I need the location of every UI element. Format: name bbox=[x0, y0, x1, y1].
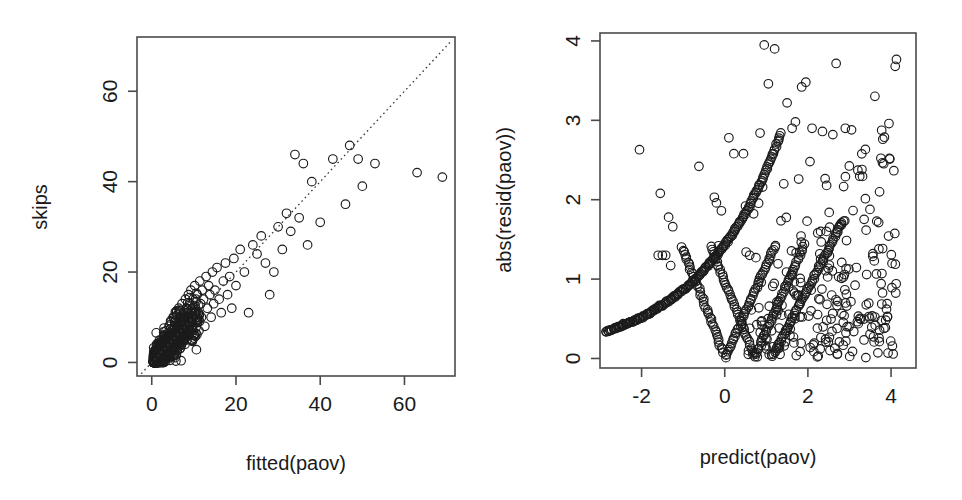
data-point bbox=[207, 313, 216, 322]
right-y-tick-label: 0 bbox=[561, 353, 584, 365]
data-point bbox=[354, 155, 363, 164]
data-point bbox=[211, 286, 220, 295]
data-point bbox=[828, 309, 837, 318]
data-point bbox=[866, 205, 875, 214]
data-point bbox=[329, 155, 338, 164]
data-point bbox=[851, 281, 860, 290]
data-point bbox=[878, 269, 887, 278]
data-point bbox=[818, 285, 827, 294]
data-point bbox=[878, 289, 887, 298]
data-point bbox=[192, 345, 201, 354]
data-point bbox=[270, 268, 279, 277]
data-point bbox=[656, 189, 665, 198]
data-point bbox=[890, 166, 899, 175]
data-point bbox=[885, 119, 894, 128]
data-point bbox=[841, 172, 850, 181]
data-point bbox=[847, 126, 856, 135]
data-point bbox=[841, 124, 850, 133]
data-point bbox=[209, 299, 218, 308]
left-y-tick-label: 20 bbox=[98, 260, 121, 283]
right-y-tick-label: 4 bbox=[561, 35, 584, 47]
right-data-points bbox=[602, 41, 901, 362]
data-point bbox=[760, 41, 769, 50]
data-point bbox=[829, 130, 838, 139]
left-x-tick-label: 60 bbox=[393, 392, 416, 415]
right-y-tick-label: 3 bbox=[561, 114, 584, 126]
data-point bbox=[845, 352, 854, 361]
data-point bbox=[215, 295, 224, 304]
data-point bbox=[253, 250, 262, 259]
data-point bbox=[225, 272, 234, 281]
data-point bbox=[217, 308, 226, 317]
data-point bbox=[839, 182, 848, 191]
left-plot-region bbox=[137, 37, 455, 376]
data-point bbox=[730, 149, 739, 158]
data-point bbox=[286, 227, 295, 236]
data-point bbox=[862, 301, 871, 310]
data-point bbox=[774, 260, 783, 269]
right-x-tick-label: 0 bbox=[719, 384, 731, 407]
left-x-axis-title: fitted(paov) bbox=[246, 452, 346, 474]
data-point bbox=[227, 304, 236, 313]
right-x-tick-label: 4 bbox=[885, 384, 897, 407]
right-x-tick-label: -2 bbox=[632, 384, 651, 407]
right-x-axis-title: predict(paov) bbox=[700, 446, 817, 468]
data-point bbox=[230, 254, 239, 263]
right-scatter-panel: -2024 01234 predict(paov) abs(resid(paov… bbox=[481, 0, 962, 500]
data-point bbox=[845, 162, 854, 171]
left-y-axis: 0204060 bbox=[98, 80, 137, 369]
data-point bbox=[888, 342, 897, 351]
data-point bbox=[739, 149, 748, 158]
left-y-tick-label: 40 bbox=[98, 170, 121, 193]
data-point bbox=[794, 175, 803, 184]
data-point bbox=[291, 150, 300, 159]
data-point bbox=[299, 159, 308, 168]
left-x-tick-label: 0 bbox=[146, 392, 158, 415]
data-point bbox=[818, 127, 827, 136]
data-point bbox=[712, 199, 721, 208]
data-point bbox=[816, 227, 825, 236]
left-scatter-panel: 0204060 0204060 fitted(paov) skips bbox=[0, 0, 481, 500]
left-y-tick-label: 0 bbox=[98, 357, 121, 369]
data-point bbox=[244, 308, 253, 317]
data-point bbox=[768, 282, 777, 291]
left-data-points bbox=[149, 141, 447, 367]
data-point bbox=[232, 281, 241, 290]
identity-reference-line bbox=[141, 42, 451, 374]
data-point bbox=[282, 209, 291, 218]
data-point bbox=[887, 250, 896, 259]
data-point bbox=[206, 290, 215, 299]
data-point bbox=[635, 145, 644, 154]
right-y-axis: 01234 bbox=[561, 35, 600, 365]
data-point bbox=[201, 322, 210, 331]
data-point bbox=[825, 208, 834, 217]
data-point bbox=[316, 218, 325, 227]
data-point bbox=[341, 200, 350, 209]
data-point bbox=[345, 141, 354, 150]
data-point bbox=[861, 194, 870, 203]
data-point bbox=[813, 324, 822, 333]
data-point bbox=[803, 217, 812, 226]
data-point bbox=[756, 129, 765, 138]
data-point bbox=[808, 124, 817, 133]
right-y-axis-title: abs(resid(paov)) bbox=[493, 127, 515, 273]
data-point bbox=[819, 323, 828, 332]
data-point bbox=[813, 310, 822, 319]
data-point bbox=[860, 336, 869, 345]
data-point bbox=[886, 337, 895, 346]
data-point bbox=[261, 259, 270, 268]
data-point bbox=[871, 92, 880, 101]
data-point bbox=[664, 213, 673, 222]
data-point bbox=[221, 259, 230, 268]
left-x-tick-label: 20 bbox=[224, 392, 247, 415]
data-point bbox=[240, 268, 249, 277]
data-point bbox=[783, 99, 792, 108]
data-point bbox=[265, 290, 274, 299]
data-point bbox=[885, 154, 894, 163]
data-point bbox=[848, 347, 857, 356]
data-point bbox=[764, 80, 773, 89]
data-point bbox=[710, 193, 719, 202]
left-x-axis: 0204060 bbox=[146, 376, 416, 415]
data-point bbox=[779, 180, 788, 189]
data-point bbox=[303, 241, 312, 250]
